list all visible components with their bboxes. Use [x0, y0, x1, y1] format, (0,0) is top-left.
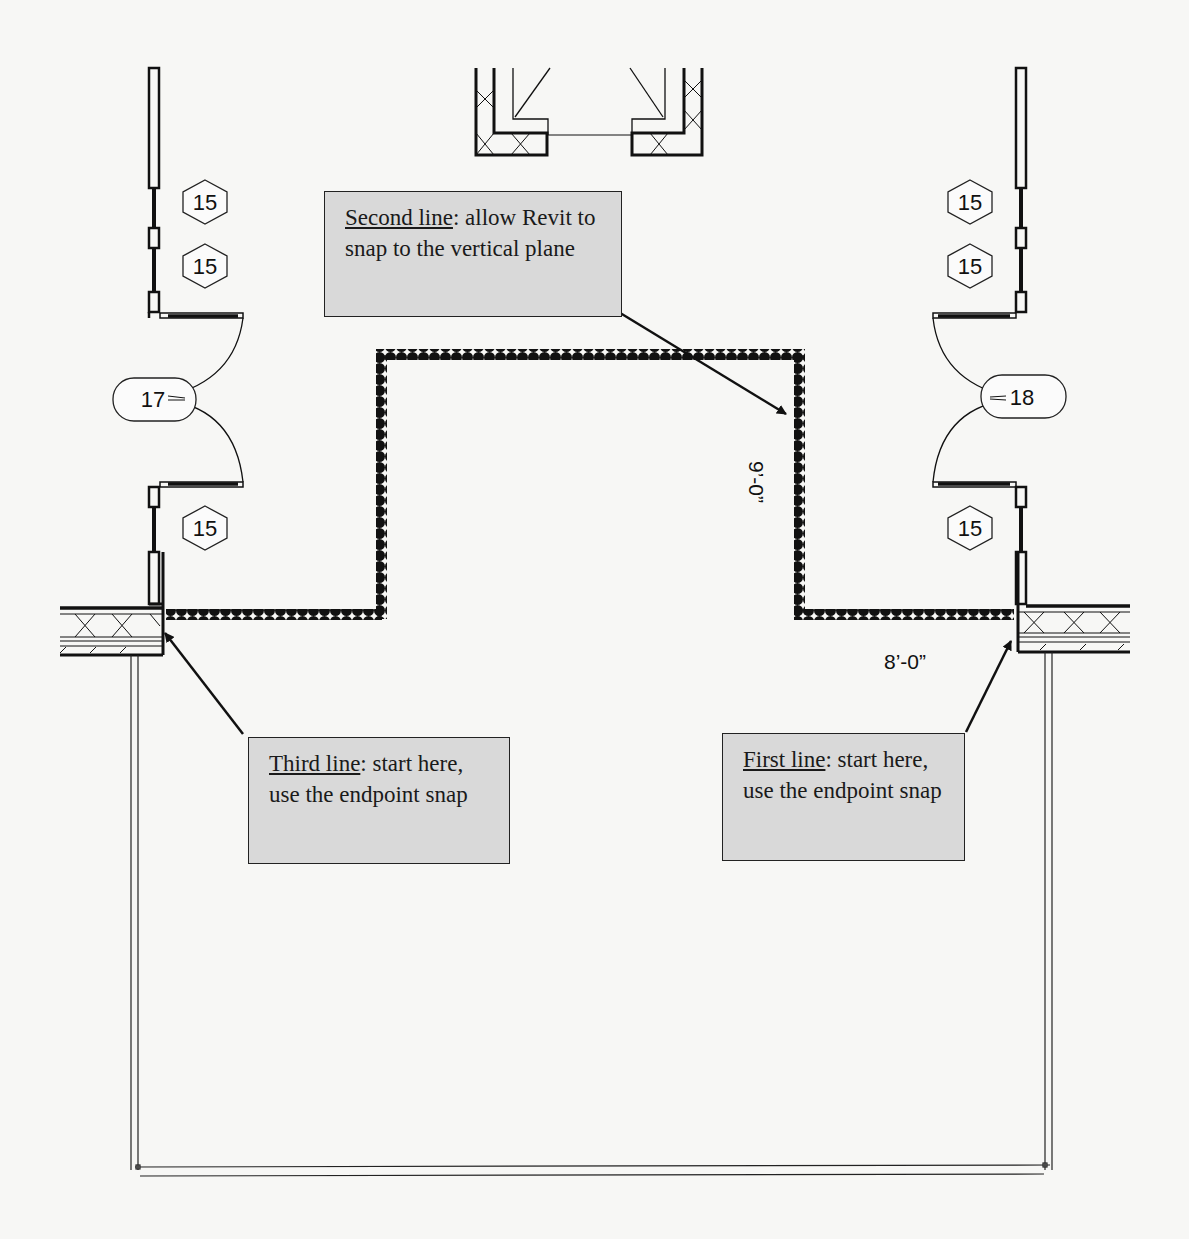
right-floor-section [1018, 606, 1130, 652]
dimension-vertical-label: 9’-0” [744, 461, 768, 503]
sketch-boundary-dotted-line [166, 349, 1014, 620]
door-tags [113, 375, 1066, 421]
arrow-first-line [966, 641, 1011, 732]
door-tag-right-label: 18 [1010, 385, 1034, 410]
right-wall [933, 68, 1026, 652]
door-tag-leaders [168, 396, 1006, 400]
callout-second-line-lead: Second line [345, 205, 453, 230]
floor-plan-drawing: 15 15 15 15 15 15 17 18 [0, 0, 1189, 1239]
window-tag-right-1-label: 15 [958, 190, 982, 215]
window-tag-left-2-label: 15 [193, 254, 217, 279]
window-tag-right-2-label: 15 [958, 254, 982, 279]
window-tag-right-3-label: 15 [958, 516, 982, 541]
callout-third-line-lead: Third line [269, 751, 360, 776]
window-tag-left-3-label: 15 [193, 516, 217, 541]
dimension-horizontal-label: 8’-0” [884, 650, 926, 674]
window-tag-left-1-label: 15 [193, 190, 217, 215]
lower-room-outline [131, 652, 1052, 1176]
left-floor-section [60, 608, 163, 655]
left-wall [149, 68, 243, 655]
callout-second-line: Second line: allow Revit to snap to the … [324, 191, 622, 317]
door-tag-left-label: 17 [141, 387, 165, 412]
callout-first-line: First line: start here, use the endpoint… [722, 733, 965, 861]
arrow-third-line [165, 633, 243, 734]
arrow-second-line [612, 308, 786, 414]
callout-first-line-lead: First line [743, 747, 825, 772]
callout-third-line: Third line: start here, use the endpoint… [248, 737, 510, 864]
top-shaft-walls [476, 68, 702, 155]
